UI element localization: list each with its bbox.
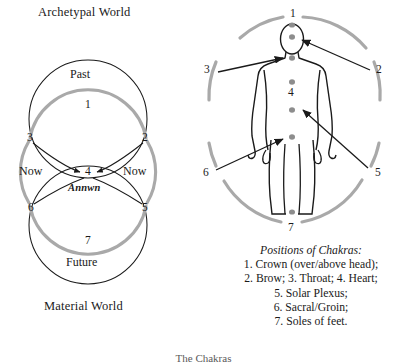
left-node-3: 3 xyxy=(27,132,33,144)
chakra-legend: Positions of Chakras: 1. Crown (over/abo… xyxy=(215,244,407,329)
legend-title: Positions of Chakras: xyxy=(215,244,407,258)
left-node-6: 6 xyxy=(28,202,34,214)
chakra-dot-7 xyxy=(289,209,295,214)
chakra-dot-3 xyxy=(289,55,295,61)
figure-inseam-right xyxy=(299,144,300,214)
archetypal-world-label: Archetypal World xyxy=(38,6,131,19)
now-left-label: Now xyxy=(19,165,42,177)
legend-line-5: 7. Soles of feet. xyxy=(215,315,407,329)
figure-arm-right-inner xyxy=(316,70,320,150)
left-node-4: 4 xyxy=(85,166,91,178)
left-node-1: 1 xyxy=(85,99,91,111)
chakra-circle xyxy=(209,17,380,222)
figure-arm-left xyxy=(248,104,255,159)
legend-line-4: 6. Sacral/Groin; xyxy=(215,301,407,315)
legend-line-3: 5. Solar Plexus; xyxy=(215,287,407,301)
past-label: Past xyxy=(70,68,90,80)
pointer-arrow-6 xyxy=(216,139,283,170)
right-node-4: 4 xyxy=(288,87,294,99)
right-node-2: 2 xyxy=(376,64,382,76)
right-body-group xyxy=(209,17,380,222)
right-node-1: 1 xyxy=(290,8,296,20)
gray-arc-right xyxy=(147,141,156,203)
chakra-dot-4 xyxy=(289,79,295,85)
legend-line-1: 1. Crown (over/above head); xyxy=(215,258,407,272)
figure-arm-right xyxy=(329,104,336,159)
figure-inseam-left xyxy=(284,144,285,214)
chakra-dot-5 xyxy=(289,107,295,113)
pointer-arrow-3 xyxy=(218,58,283,72)
chakra-dot-6 xyxy=(289,134,295,140)
right-node-7: 7 xyxy=(288,222,294,234)
chakra-dot-1 xyxy=(289,22,295,27)
chakra-dot-2 xyxy=(289,34,295,40)
annwn-label: Annwn xyxy=(68,183,101,194)
left-node-2: 2 xyxy=(142,132,148,144)
gray-arc-lower xyxy=(30,206,146,254)
figure-arm-left-inner xyxy=(264,70,268,150)
right-node-3: 3 xyxy=(204,64,210,76)
figure-caption: The Chakras xyxy=(0,352,407,362)
right-node-5: 5 xyxy=(375,167,381,179)
material-world-label: Material World xyxy=(44,300,123,313)
legend-line-2: 2. Brow; 3. Throat; 4. Heart; xyxy=(215,272,407,286)
chakra-figure: Archetypal World Past Now Now Annwn Futu… xyxy=(0,0,407,362)
future-label: Future xyxy=(66,256,97,268)
right-node-6: 6 xyxy=(203,167,209,179)
left-node-7: 7 xyxy=(85,235,91,247)
left-node-5: 5 xyxy=(142,202,148,214)
now-right-label: Now xyxy=(123,165,146,177)
pointer-arrow-2 xyxy=(302,40,370,70)
pointer-arrow-5 xyxy=(303,110,368,168)
